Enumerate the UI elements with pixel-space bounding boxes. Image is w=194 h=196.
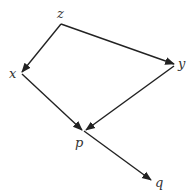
edge-z-x (22, 24, 61, 72)
node-label-p: p (75, 135, 84, 150)
edge-z-y (61, 24, 174, 64)
dag-diagram: z x y p q (0, 0, 194, 196)
edge-p-q (84, 131, 151, 180)
node-label-q: q (155, 175, 163, 190)
edge-y-p (86, 66, 174, 130)
edge-x-p (22, 74, 82, 130)
node-label-x: x (9, 66, 17, 81)
node-label-z: z (56, 6, 64, 21)
node-label-y: y (177, 56, 186, 71)
